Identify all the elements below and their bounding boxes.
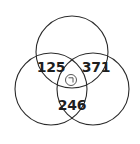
center-mark-icon <box>66 75 77 86</box>
circle-top <box>36 16 108 88</box>
region-label-top-right: 371 <box>82 59 110 75</box>
region-label-top-left: 125 <box>37 59 65 75</box>
region-label-bottom: 246 <box>58 97 86 113</box>
venn-diagram: 125 371 246 <box>0 0 140 144</box>
